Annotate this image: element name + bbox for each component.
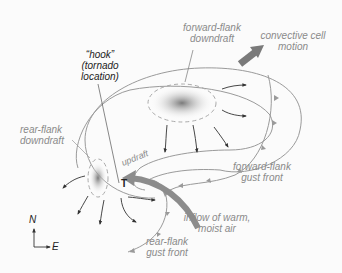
ff-leader-line	[185, 50, 193, 82]
label-hook: “hook” (tornado location)	[70, 49, 130, 82]
rf-leader-line	[72, 140, 90, 158]
label-rear-flank-gust-front: rear-flank gust front	[138, 236, 196, 258]
tornado-marker: T	[121, 178, 127, 189]
compass-east-label: E	[52, 241, 59, 252]
label-inflow: inflow of warm, moist air	[172, 212, 262, 234]
label-convective-cell-motion: convective cell motion	[250, 30, 336, 52]
supercell-diagram: forward-flank downdraft convective cell …	[0, 0, 342, 273]
label-forward-flank-gust-front: forward-flank gust front	[222, 161, 302, 183]
label-forward-flank-downdraft: forward-flank downdraft	[172, 22, 252, 44]
label-rear-flank-downdraft: rear-flank downdraft	[20, 124, 64, 146]
compass-north-label: N	[29, 214, 36, 225]
